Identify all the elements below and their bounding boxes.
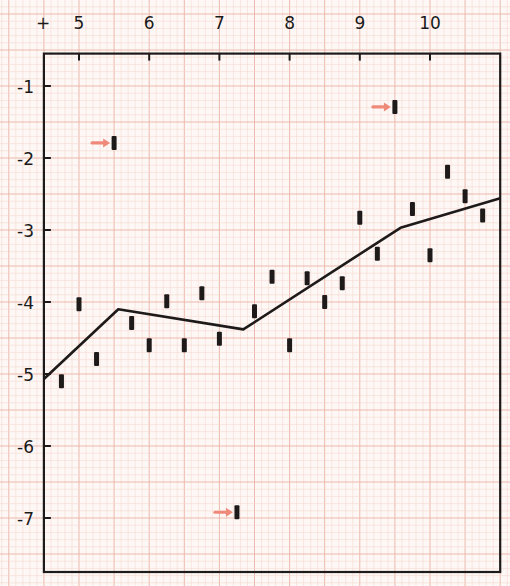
y-tick-label: -2 bbox=[17, 149, 34, 169]
outlier-marker bbox=[92, 136, 117, 150]
data-point bbox=[410, 202, 415, 216]
x-tick-label: 9 bbox=[354, 13, 365, 33]
data-point bbox=[357, 211, 362, 225]
data-point bbox=[375, 247, 380, 261]
data-point bbox=[252, 304, 257, 318]
data-point bbox=[217, 332, 222, 346]
plot-frame bbox=[44, 54, 500, 572]
data-point bbox=[445, 165, 450, 179]
data-point bbox=[480, 209, 485, 223]
x-tick-label: 5 bbox=[74, 13, 85, 33]
outlier-point bbox=[392, 100, 397, 114]
y-tick-label: -7 bbox=[17, 509, 34, 529]
data-point bbox=[287, 338, 292, 352]
x-tick-label: 8 bbox=[284, 13, 295, 33]
outlier-point bbox=[234, 505, 239, 519]
data-point bbox=[199, 286, 204, 300]
x-tick-label: 6 bbox=[144, 13, 155, 33]
y-tick-label: -6 bbox=[17, 437, 34, 457]
outlier-marker bbox=[215, 505, 240, 519]
y-tick-label: -5 bbox=[17, 365, 34, 385]
data-point bbox=[428, 248, 433, 262]
data-point bbox=[463, 189, 468, 203]
arrow-head-icon bbox=[384, 102, 391, 111]
data-point bbox=[305, 271, 310, 285]
arrow-head-icon bbox=[226, 508, 233, 517]
corner-plus-symbol: + bbox=[36, 13, 50, 33]
y-tick-label: -1 bbox=[17, 77, 34, 97]
outlier-marker bbox=[373, 100, 398, 114]
data-points bbox=[59, 165, 485, 389]
outlier-point bbox=[112, 136, 117, 150]
data-point bbox=[94, 352, 99, 366]
x-tick-label: 7 bbox=[214, 13, 225, 33]
data-point bbox=[77, 297, 82, 311]
chart: 5678910 -1-2-3-4-5-6-7 + bbox=[0, 0, 510, 586]
y-tick-label: -4 bbox=[17, 293, 34, 313]
data-point bbox=[322, 295, 327, 309]
data-point bbox=[182, 338, 187, 352]
y-axis: -1-2-3-4-5-6-7 bbox=[17, 77, 51, 529]
data-point bbox=[340, 276, 345, 290]
arrow-head-icon bbox=[103, 138, 110, 147]
data-point bbox=[59, 374, 64, 388]
data-point bbox=[129, 316, 134, 330]
data-point bbox=[270, 270, 275, 284]
x-tick-label: 10 bbox=[419, 13, 441, 33]
fit-line bbox=[44, 198, 500, 379]
outlier-points bbox=[92, 100, 397, 519]
data-point bbox=[164, 294, 169, 308]
graph-paper-grid bbox=[0, 0, 510, 586]
y-tick-label: -3 bbox=[17, 221, 34, 241]
data-point bbox=[147, 338, 152, 352]
